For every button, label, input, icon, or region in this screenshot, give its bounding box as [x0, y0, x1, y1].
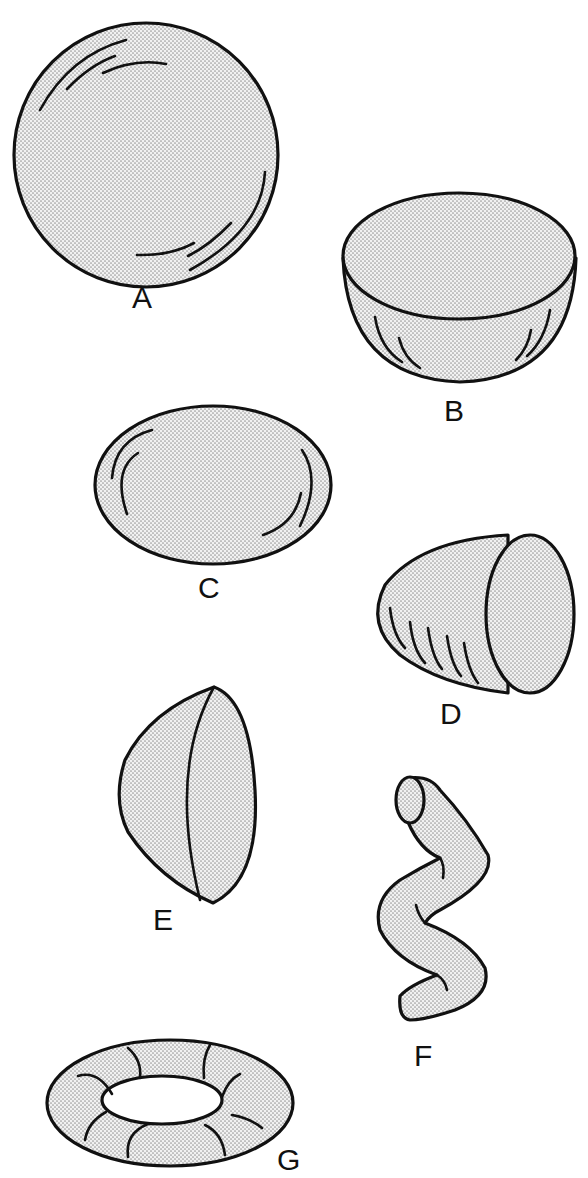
label-c: C	[198, 571, 220, 604]
shape-b-hemisphere: B	[343, 193, 576, 427]
shapes-diagram: A B C D E	[0, 0, 588, 1178]
label-d: D	[440, 697, 462, 730]
shape-d-paraboloid: D	[378, 535, 574, 730]
label-g: G	[277, 1143, 300, 1176]
shape-a-sphere: A	[14, 23, 278, 314]
label-e: E	[153, 903, 173, 936]
label-a: A	[132, 281, 152, 314]
shape-f-coil: F	[378, 777, 489, 1072]
shape-g-torus: G	[47, 1040, 300, 1176]
label-f: F	[414, 1039, 432, 1072]
shape-c-ellipsoid: C	[95, 406, 331, 604]
shape-e-dome: E	[119, 687, 255, 936]
label-b: B	[444, 394, 464, 427]
